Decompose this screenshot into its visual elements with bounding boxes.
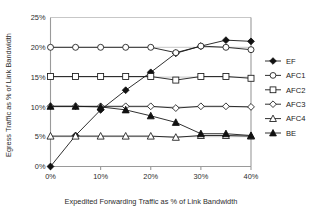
marker-open-square — [223, 74, 229, 80]
y-tick-label: 0% — [35, 162, 46, 171]
y-tick-label: 10% — [31, 103, 46, 112]
marker-open-diamond — [197, 103, 204, 110]
marker-filled-diamond — [270, 58, 277, 65]
x-tick-label: 30% — [193, 172, 208, 181]
marker-open-circle — [148, 44, 154, 50]
y-tick-label: 15% — [31, 73, 46, 82]
legend-label-be: BE — [286, 129, 296, 138]
marker-open-circle — [173, 50, 179, 56]
marker-open-diamond — [172, 105, 179, 112]
marker-open-diamond — [248, 104, 255, 111]
legend-label-afc3: AFC3 — [286, 100, 305, 109]
legend-label-afc2: AFC2 — [286, 86, 305, 95]
x-axis-title: Expedited Forwarding Traffic as % of Lin… — [65, 197, 238, 206]
marker-open-circle — [98, 44, 104, 50]
legend-label-afc1: AFC1 — [286, 71, 305, 80]
marker-open-square — [123, 74, 129, 80]
series-afc1 — [48, 43, 255, 56]
x-tick-label: 0% — [45, 172, 56, 181]
legend-label-afc4: AFC4 — [286, 114, 305, 123]
marker-open-square — [148, 74, 154, 80]
marker-open-circle — [248, 47, 254, 53]
marker-open-circle — [198, 43, 204, 49]
marker-open-circle — [123, 44, 129, 50]
data-series-group — [47, 37, 255, 170]
series-line-be — [51, 106, 252, 135]
legend-item-afc2[interactable]: AFC2 — [265, 86, 305, 95]
marker-open-circle — [48, 44, 54, 50]
marker-open-square — [98, 74, 104, 80]
axes — [51, 18, 252, 171]
chart-canvas: 0%5%10%15%20%25% 0%10%20%30%40% EFAFC1AF… — [0, 0, 324, 211]
line-chart: 0%5%10%15%20%25% 0%10%20%30%40% EFAFC1AF… — [0, 0, 324, 211]
marker-filled-diamond — [223, 37, 230, 44]
marker-open-circle — [73, 44, 79, 50]
marker-open-circle — [223, 44, 229, 50]
marker-open-diamond — [147, 103, 154, 110]
legend-label-ef: EF — [286, 57, 296, 66]
chart-legend: EFAFC1AFC2AFC3AFC4BE — [265, 57, 305, 138]
x-tick-label: 40% — [244, 172, 259, 181]
y-tick-label: 5% — [35, 132, 46, 141]
y-axis-tick-labels: 0%5%10%15%20%25% — [31, 13, 46, 171]
marker-open-square — [73, 74, 79, 80]
gridlines — [51, 18, 252, 167]
marker-open-square — [248, 75, 254, 81]
x-tick-label: 20% — [143, 172, 158, 181]
legend-item-be[interactable]: BE — [265, 129, 296, 138]
marker-open-circle — [270, 73, 276, 79]
y-tick-label: 25% — [31, 13, 46, 22]
series-afc2 — [48, 74, 255, 84]
x-axis-tick-labels: 0%10%20%30%40% — [45, 172, 259, 181]
y-tick-label: 20% — [31, 43, 46, 52]
legend-item-ef[interactable]: EF — [265, 57, 296, 66]
marker-open-square — [173, 77, 179, 83]
legend-item-afc4[interactable]: AFC4 — [265, 114, 305, 123]
marker-open-square — [48, 74, 54, 80]
x-tick-label: 10% — [93, 172, 108, 181]
legend-item-afc1[interactable]: AFC1 — [265, 71, 305, 80]
marker-open-diamond — [270, 101, 277, 108]
legend-item-afc3[interactable]: AFC3 — [265, 100, 305, 109]
marker-open-diamond — [223, 103, 230, 110]
marker-filled-diamond — [248, 38, 255, 45]
marker-open-square — [198, 74, 204, 80]
y-axis-title: Egress Traffic as % of Link Bandwidth — [4, 33, 13, 157]
marker-open-square — [270, 87, 276, 93]
